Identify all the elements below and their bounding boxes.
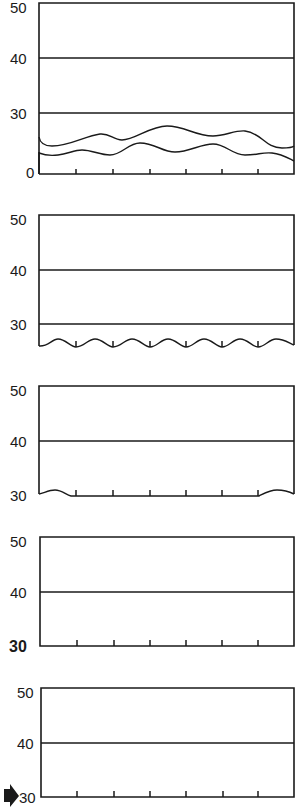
panel-4-ticks [77,640,258,646]
panel-1-lower-surface-line [39,143,294,161]
panel-5: 50 40 30 [4,684,294,807]
panel-1-label-50: 50 [10,0,27,16]
panel-1-frame [39,3,294,174]
panel-3-frame [39,386,294,494]
panel-4-label-30: 30 [9,638,27,655]
panel-5-label-50: 50 [17,684,34,701]
panel-3-bottom-edge [39,490,294,496]
panel-4-label-40: 40 [10,584,27,601]
panel-2-label-40: 40 [10,262,27,279]
panel-4: 50 40 30 [9,533,294,655]
right-arrow-icon [4,784,19,807]
panel-3: 50 40 30 [10,382,294,504]
panel-4-label-50: 50 [10,533,27,550]
panel-3-label-40: 40 [10,433,27,450]
panel-2: 50 40 30 [10,211,294,347]
staged-level-diagram: 50 40 30 0 50 40 30 [0,0,305,809]
panel-3-label-50: 50 [10,382,27,399]
panel-2-label-30: 30 [10,316,27,333]
panel-1-label-40: 40 [10,50,27,67]
panel-5-label-40: 40 [17,735,34,752]
panel-1: 50 40 30 0 [10,0,294,181]
panel-3-ticks [76,490,258,496]
panel-1-label-0: 0 [26,164,34,181]
panel-5-ticks [77,791,258,797]
panel-2-surface-wave [39,339,294,347]
panel-1-label-30: 30 [10,105,27,122]
panel-2-label-50: 50 [10,211,27,228]
panel-2-frame [39,215,294,346]
panel-5-label-30: 30 [19,789,36,806]
panel-3-label-30: 30 [10,487,27,504]
panel-1-upper-surface-line [39,126,294,148]
